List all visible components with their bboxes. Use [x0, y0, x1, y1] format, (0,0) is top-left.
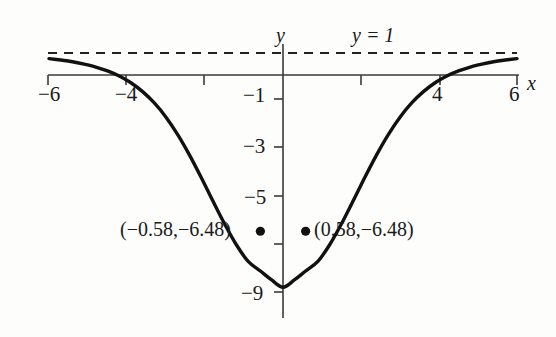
x-tick-label-4: 4	[432, 84, 443, 105]
point-label-right: (0.58,−6.48)	[314, 219, 414, 239]
y-tick-label-neg5: −5	[244, 187, 266, 208]
x-tick-label-neg4: −4	[115, 84, 137, 105]
asymptote-label: y = 1	[352, 25, 394, 45]
y-axis-label: y	[276, 25, 285, 45]
point-label-left: (−0.58,−6.48)	[120, 219, 231, 239]
x-tick-label-neg6: −6	[38, 84, 60, 105]
y-axis-ticks	[274, 99, 283, 292]
y-tick-label-neg1: −1	[243, 85, 265, 106]
y-tick-label-neg3: −3	[243, 136, 265, 157]
x-tick-label-6: 6	[509, 84, 520, 105]
graph-figure: −6 −4 4 6 −1 −3 −5 −9 x y y = 1 (−0.58,−…	[0, 0, 556, 337]
x-axis-label: x	[527, 73, 536, 93]
y-tick-label-neg9: −9	[241, 283, 263, 304]
plot-canvas	[0, 0, 556, 337]
point-marker-right	[301, 227, 310, 236]
point-marker-left	[256, 227, 265, 236]
